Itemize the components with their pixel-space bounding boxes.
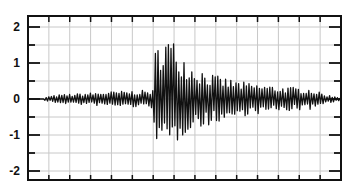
y-label-0: 0 bbox=[13, 92, 20, 106]
y-axis-labels: 2 1 0 -1 -2 bbox=[9, 20, 20, 178]
waveform-trace bbox=[28, 44, 340, 140]
y-label-neg2: -2 bbox=[9, 164, 20, 178]
y-label-neg1: -1 bbox=[9, 128, 20, 142]
waveform-line bbox=[28, 44, 340, 140]
waveform-chart: 2 1 0 -1 -2 bbox=[0, 0, 356, 192]
y-label-1: 1 bbox=[13, 56, 20, 70]
y-label-2: 2 bbox=[13, 20, 20, 34]
